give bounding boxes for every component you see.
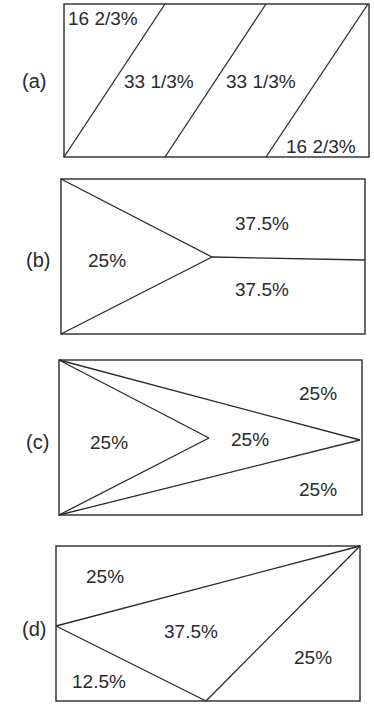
- panel-c-divider-1: [59, 360, 209, 438]
- panel-c-region-3: 25%: [299, 383, 337, 404]
- panel-d-divider-3: [206, 546, 360, 701]
- panel-d-region-3: 12.5%: [72, 671, 126, 692]
- panel-b-region-3: 37.5%: [235, 279, 289, 300]
- panel-d-region-1: 25%: [86, 566, 124, 587]
- panel-c-label: (c): [26, 431, 49, 453]
- panel-b-region-2: 37.5%: [235, 213, 289, 234]
- panel-a-region-2: 33 1/3%: [124, 71, 194, 92]
- panel-b-divider-1: [61, 179, 212, 257]
- panel-a-region-1: 16 2/3%: [68, 8, 138, 29]
- panel-d-region-2: 37.5%: [164, 621, 218, 642]
- panel-b-divider-2: [61, 257, 212, 334]
- panel-a-region-4: 16 2/3%: [286, 136, 356, 157]
- panel-a-label: (a): [22, 70, 46, 92]
- panel-c-region-2: 25%: [231, 429, 269, 450]
- panel-b-region-1: 25%: [88, 250, 126, 271]
- partition-diagrams: (a) 16 2/3% 33 1/3% 33 1/3% 16 2/3% (b) …: [0, 0, 374, 704]
- panel-d-label: (d): [22, 618, 46, 640]
- panel-c-region-4: 25%: [299, 479, 337, 500]
- panel-b-divider-3: [212, 257, 365, 260]
- panel-b-label: (b): [26, 249, 50, 271]
- panel-c-region-1: 25%: [90, 432, 128, 453]
- panel-a: (a) 16 2/3% 33 1/3% 33 1/3% 16 2/3%: [22, 4, 369, 157]
- panel-c-divider-2: [59, 438, 209, 515]
- panel-c: (c) 25% 25% 25% 25%: [26, 360, 362, 515]
- panel-d: (d) 25% 37.5% 12.5% 25%: [22, 546, 360, 701]
- panel-d-region-4: 25%: [294, 647, 332, 668]
- panel-b: (b) 25% 37.5% 37.5%: [26, 179, 365, 334]
- panel-a-region-3: 33 1/3%: [226, 71, 296, 92]
